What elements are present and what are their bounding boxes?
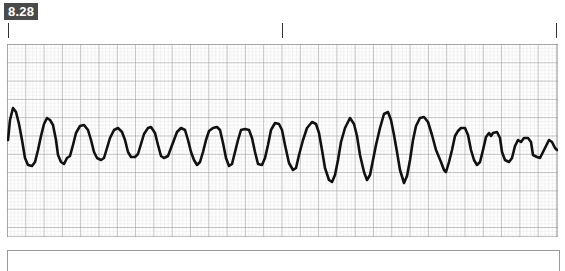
ecg-grid (7, 44, 558, 237)
figure-label: 8.28 (4, 3, 38, 20)
ecg-strip (7, 44, 558, 237)
caption-box (7, 250, 560, 271)
time-marker-tick (556, 23, 557, 38)
time-marker-tick (8, 23, 9, 38)
time-marker-tick (282, 23, 283, 38)
